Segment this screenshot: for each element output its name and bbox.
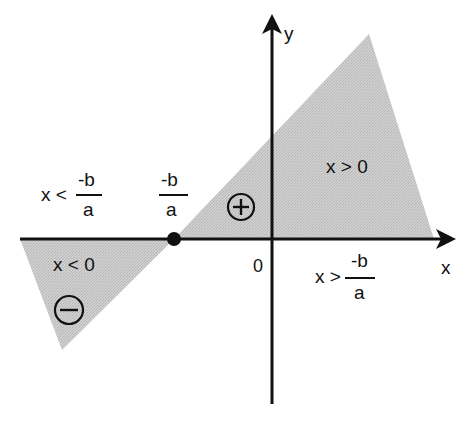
- right-inequality: x > -b a: [315, 250, 375, 303]
- left-inequality-denominator: a: [83, 199, 94, 220]
- negative-region-condition: x < 0: [53, 254, 95, 275]
- left-inequality: x < -b a: [41, 169, 102, 220]
- root-label: -b a: [159, 169, 188, 220]
- root-point-dot: [167, 232, 181, 246]
- left-inequality-numerator: -b: [78, 169, 95, 190]
- right-inequality-denominator: a: [354, 282, 365, 303]
- positive-region-condition: x > 0: [326, 156, 368, 177]
- positive-region-shade: [174, 34, 434, 239]
- x-axis-label: x: [441, 257, 451, 278]
- y-axis-label: y: [284, 23, 294, 44]
- sign-diagram: y x 0 -b a x < -b a x > -b a x > 0 x < 0: [0, 0, 471, 421]
- root-label-numerator: -b: [161, 169, 178, 190]
- origin-label: 0: [253, 256, 263, 276]
- negative-region-shade: [20, 239, 174, 350]
- right-inequality-numerator: -b: [351, 250, 368, 271]
- right-inequality-prefix: x >: [315, 266, 341, 287]
- root-label-denominator: a: [166, 199, 177, 220]
- left-inequality-prefix: x <: [41, 184, 67, 205]
